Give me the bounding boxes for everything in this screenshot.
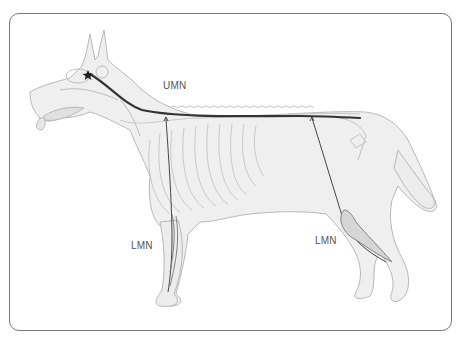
dog-body <box>30 30 436 306</box>
lmn-front-label: LMN <box>131 240 153 251</box>
dog-illustration <box>0 0 461 342</box>
lmn-hind-label: LMN <box>315 235 337 246</box>
umn-label: UMN <box>163 80 186 91</box>
